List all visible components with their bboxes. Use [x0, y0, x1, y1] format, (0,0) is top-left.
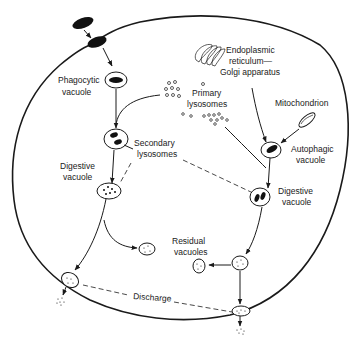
digestive-vacuole-right: [250, 188, 270, 206]
discharge-vesicle-right: [232, 306, 250, 316]
label-secondary-2: lysosomes: [137, 149, 177, 159]
label-digestive-right: Digestive: [278, 186, 313, 196]
mitochondrion-icon: [297, 111, 317, 130]
phagocytic-vacuole: [105, 72, 127, 88]
label-discharge: Discharge: [133, 291, 172, 304]
discharged-material-right: [236, 328, 244, 334]
digestive-vacuole-left: [97, 183, 121, 199]
label-er-2: reticulum—: [229, 56, 272, 66]
label-digestive-left-2: vacuole: [63, 172, 93, 182]
primary-lysosomes-cluster-left: [165, 81, 181, 98]
label-mitochondrion: Mitochondrion: [275, 98, 329, 108]
label-golgi: Golgi apparatus: [220, 67, 280, 77]
label-digestive-right-2: vacuole: [282, 197, 312, 207]
external-particle: [71, 15, 95, 32]
er-golgi-icon: [195, 44, 225, 66]
label-autophagic-2: vacuole: [296, 155, 326, 165]
residual-vacuole-right: [232, 256, 248, 270]
label-digestive-left: Digestive: [60, 161, 95, 171]
label-er: Endoplasmic: [226, 45, 275, 55]
autophagic-vacuole: [261, 142, 281, 158]
lysosome-diagram: Phagocytic vacuole Secondary lysosomes D…: [0, 0, 363, 351]
label-phagocytic: Phagocytic: [58, 75, 100, 85]
label-phagocytic-2: vacuole: [62, 87, 92, 97]
residual-vacuole-small: [193, 259, 205, 273]
label-primary-2: lysosomes: [187, 99, 227, 109]
discharge-vesicle-left: [59, 269, 82, 290]
label-primary: Primary: [192, 88, 222, 98]
label-secondary: Secondary: [134, 138, 175, 148]
discharged-material-left: [56, 297, 64, 305]
label-residual-2: vacuoles: [174, 247, 208, 257]
label-autophagic: Autophagic: [291, 144, 334, 154]
residual-vacuole-left: [139, 243, 155, 255]
secondary-lysosome-vacuole: [104, 129, 128, 149]
primary-lysosomes-cluster-right: [182, 113, 229, 126]
label-residual: Residual: [172, 236, 205, 246]
